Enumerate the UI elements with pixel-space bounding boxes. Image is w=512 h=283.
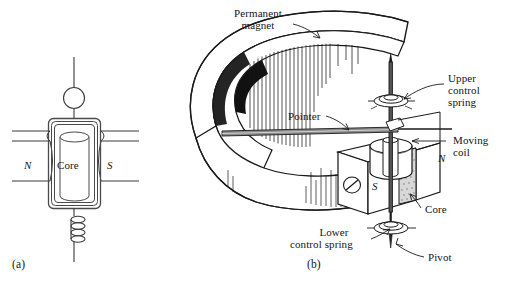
figure-moving-coil-meter: N Core S (a) Permanent magnet Upper cont… — [0, 0, 512, 283]
label-moving-coil-line1: Moving — [453, 134, 488, 147]
panel-a-caption: (a) — [12, 258, 25, 271]
label-core: Core — [425, 203, 447, 216]
panel-a-artwork — [0, 0, 512, 283]
label-pivot: Pivot — [428, 251, 452, 264]
panel-a-label-south: S — [107, 159, 113, 172]
panel-b-pointer — [222, 127, 452, 136]
label-upper-control-spring-line3: spring — [448, 96, 476, 109]
panel-a-pole-north — [12, 131, 53, 181]
label-upper-control-spring-line2: control — [448, 84, 480, 97]
label-moving-coil-line2: coil — [453, 146, 470, 159]
label-lower-control-spring-line1: Lower — [296, 226, 372, 239]
panel-b-label-north: N — [438, 152, 445, 165]
panel-a-label-north: N — [24, 159, 31, 172]
panel-a-suspension — [64, 57, 85, 119]
label-lower-control-spring-line2: control spring — [290, 238, 353, 251]
label-permanent-magnet-line1: Permanent — [219, 7, 297, 20]
panel-b-leader-lines — [293, 24, 446, 257]
panel-b-lower-control-spring — [367, 222, 416, 234]
panel-b-pole-north-block — [416, 143, 440, 200]
panel-a-lower-spring — [71, 208, 85, 262]
label-permanent-magnet-line2: magnet — [219, 19, 297, 32]
panel-a-label-core: Core — [57, 159, 79, 172]
panel-b-caption: (b) — [307, 258, 321, 271]
panel-b-label-south: S — [372, 180, 378, 193]
label-upper-control-spring-line1: Upper — [448, 72, 476, 85]
panel-a-pole-south — [99, 131, 140, 181]
panel-b-spindle — [389, 52, 392, 248]
panel-b-upper-control-spring — [368, 95, 415, 109]
label-pointer: Pointer — [288, 110, 320, 123]
